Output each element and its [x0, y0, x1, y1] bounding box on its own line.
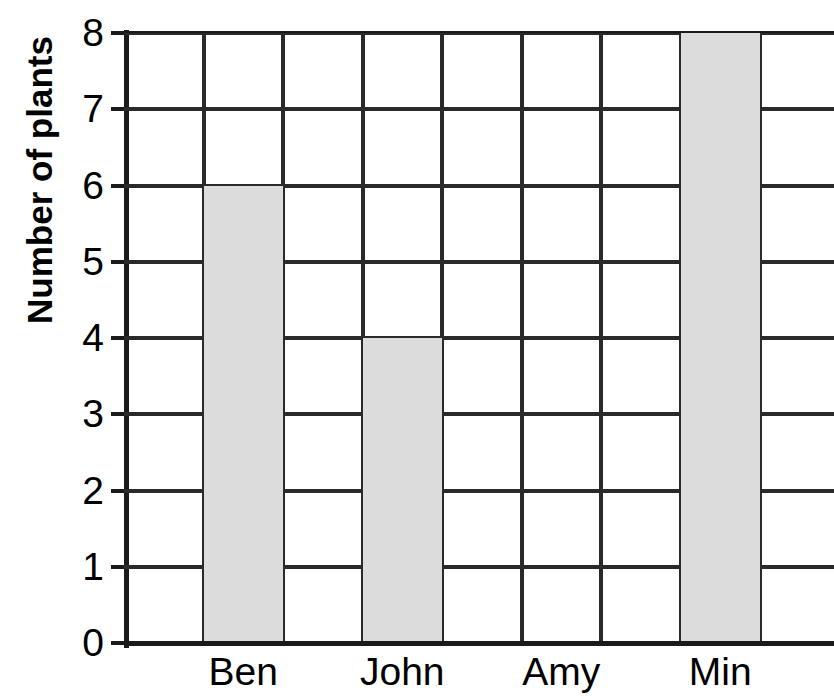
gridline-vertical [520, 33, 524, 643]
y-axis-tick-mark [111, 260, 124, 264]
x-axis-category-labels: BenJohnAmyMin [124, 648, 834, 699]
bar-chart: Number of plants 012345678 BenJohnAmyMin [0, 0, 834, 699]
y-axis-tick-mark [111, 184, 124, 188]
gridline-vertical [599, 33, 603, 643]
y-axis-tick-mark [111, 565, 124, 569]
y-axis-tick-label: 0 [60, 623, 104, 662]
x-axis-line [124, 641, 834, 646]
y-axis-tick-label: 5 [60, 242, 104, 281]
y-axis-tick-mark [111, 489, 124, 493]
y-axis-tick-mark [111, 412, 124, 416]
y-axis-tick-label: 7 [60, 89, 104, 128]
y-axis-tick-label: 2 [60, 471, 104, 510]
y-axis-tick-label: 3 [60, 394, 104, 433]
x-axis-label: Amy [482, 648, 641, 696]
x-axis-label: Min [641, 648, 800, 696]
plot-area [124, 33, 834, 643]
bar [363, 338, 443, 643]
y-axis-tick-labels: 012345678 [42, 33, 104, 643]
y-axis-tick-mark [111, 31, 124, 35]
y-axis-tick-mark [111, 336, 124, 340]
y-axis-tick-label: 1 [60, 547, 104, 586]
y-axis-tick-marks [107, 33, 124, 643]
y-axis-tick-label: 4 [60, 318, 104, 357]
bar [681, 33, 761, 643]
y-axis-tick-mark [111, 107, 124, 111]
y-axis-tick-label: 6 [60, 166, 104, 205]
y-axis-tick-mark [111, 641, 124, 645]
chart-title [0, 0, 834, 12]
x-axis-label: John [323, 648, 482, 696]
x-axis-label: Ben [164, 648, 323, 696]
y-axis-tick-label: 8 [60, 13, 104, 52]
bar [204, 186, 284, 644]
